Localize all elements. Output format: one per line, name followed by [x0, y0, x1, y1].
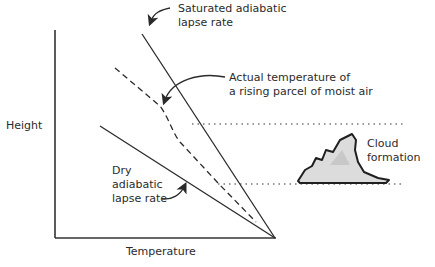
actual-arrow-icon	[165, 76, 225, 100]
lapse-rate-diagram	[0, 0, 435, 267]
saturated-arrow-icon	[151, 8, 170, 21]
x-axis-label: Temperature	[126, 245, 196, 259]
axes	[55, 30, 276, 238]
saturated-adiabatic-line	[142, 34, 275, 238]
cloud-label-line1: Cloud	[367, 137, 420, 151]
saturated-label-line1: Saturated adiabatic	[178, 2, 287, 16]
actual-label-line1: Actual temperature of	[229, 71, 373, 85]
cloud-formation-label: Cloud formation	[367, 137, 420, 165]
saturated-label-line2: lapse rate	[178, 16, 287, 30]
cloud-label-line2: formation	[367, 151, 420, 165]
dry-label-line2: adiabatic	[112, 178, 167, 192]
dry-adiabatic-label: Dry adiabatic lapse rate	[112, 164, 167, 206]
actual-temperature-label: Actual temperature of a rising parcel of…	[229, 71, 373, 99]
saturated-label: Saturated adiabatic lapse rate	[178, 2, 287, 30]
actual-label-line2: a rising parcel of moist air	[229, 85, 373, 99]
dry-label-line1: Dry	[112, 164, 167, 178]
y-axis-label: Height	[6, 119, 42, 133]
dry-label-line3: lapse rate	[112, 192, 167, 206]
